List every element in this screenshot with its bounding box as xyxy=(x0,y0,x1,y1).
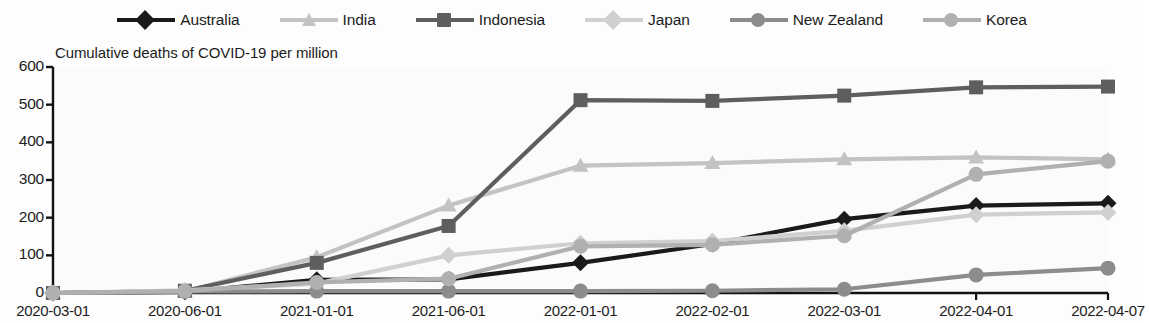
marker-circle xyxy=(837,228,852,243)
marker-circle xyxy=(1101,261,1116,276)
marker-circle xyxy=(837,282,852,297)
marker-circle xyxy=(177,284,192,299)
data-point-marker xyxy=(837,282,852,297)
y-axis-tick-label: 0 xyxy=(0,283,44,301)
marker-square xyxy=(442,219,456,233)
data-point-marker xyxy=(573,284,588,299)
data-point-marker xyxy=(574,93,588,107)
y-axis-tick-label: 300 xyxy=(0,170,44,188)
marker-circle xyxy=(441,271,456,286)
marker-circle xyxy=(46,286,61,301)
marker-square xyxy=(1101,80,1115,94)
y-axis-tick-label: 100 xyxy=(0,245,44,263)
data-point-marker xyxy=(1101,261,1116,276)
data-point-marker xyxy=(1101,80,1115,94)
marker-square xyxy=(310,256,324,270)
data-point-marker xyxy=(705,94,719,108)
marker-circle xyxy=(705,283,720,298)
data-point-marker xyxy=(705,283,720,298)
marker-circle xyxy=(573,284,588,299)
marker-circle xyxy=(705,237,720,252)
data-point-marker xyxy=(177,284,192,299)
y-axis-tick-label: 400 xyxy=(0,132,44,150)
data-point-marker xyxy=(705,237,720,252)
y-axis-tick-label: 500 xyxy=(0,95,44,113)
marker-circle xyxy=(969,167,984,182)
data-point-marker xyxy=(46,286,61,301)
data-point-marker xyxy=(969,167,984,182)
marker-circle xyxy=(309,275,324,290)
data-point-marker xyxy=(837,228,852,243)
data-point-marker xyxy=(442,219,456,233)
marker-circle xyxy=(573,239,588,254)
marker-circle xyxy=(969,267,984,282)
marker-square xyxy=(574,93,588,107)
data-point-marker xyxy=(1101,154,1116,169)
marker-square xyxy=(837,89,851,103)
data-point-marker xyxy=(310,256,324,270)
data-point-marker xyxy=(573,239,588,254)
data-point-marker xyxy=(441,271,456,286)
y-axis-tick-label: 600 xyxy=(0,57,44,75)
marker-square xyxy=(969,80,983,94)
data-point-marker xyxy=(969,267,984,282)
x-axis-tick-label: 2022-04-07 xyxy=(1028,302,1149,319)
data-point-marker xyxy=(969,80,983,94)
marker-square xyxy=(705,94,719,108)
y-axis-tick-label: 200 xyxy=(0,208,44,226)
data-point-marker xyxy=(309,275,324,290)
marker-circle xyxy=(1101,154,1116,169)
data-point-marker xyxy=(837,89,851,103)
